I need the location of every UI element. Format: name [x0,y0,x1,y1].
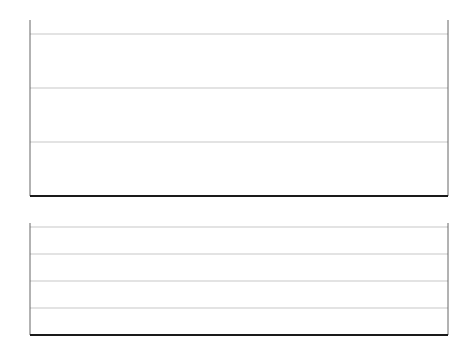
top-gridlines [30,34,448,142]
figure-container [0,0,461,364]
top-axes [30,20,448,196]
bottom-chart-plot [0,205,461,364]
chart-panel-top [0,0,461,205]
chart-panel-bottom [0,205,461,364]
top-chart-plot [0,0,461,205]
bottom-gridlines [30,227,448,308]
bottom-axes [30,223,448,335]
